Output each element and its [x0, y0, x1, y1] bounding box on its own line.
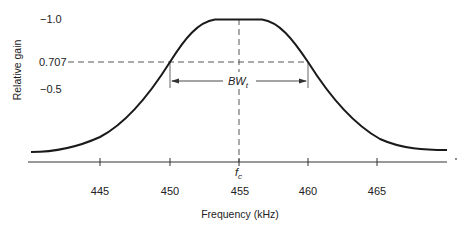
y-axis-title: Relative gain [11, 39, 23, 100]
fc-label: fc [235, 166, 242, 181]
bw-arrow-left-head [171, 79, 179, 84]
chart-svg: −1.0 0.707 −0.5 Relative gain BWt fc 445… [0, 0, 467, 231]
x-tick-label-450: 450 [161, 185, 179, 197]
stray-dot [455, 158, 457, 160]
x-tick-label-455: 455 [231, 185, 249, 197]
bw-arrow-right-head [299, 79, 307, 84]
x-tick-label-465: 465 [368, 185, 386, 197]
x-tick-label-445: 445 [91, 185, 109, 197]
y-tick-label-0707: 0.707 [39, 56, 67, 68]
x-tick-label-460: 460 [299, 185, 317, 197]
y-tick-label-05: −0.5 [40, 83, 62, 95]
y-tick-label-1: −1.0 [40, 13, 62, 25]
bandpass-response-chart: −1.0 0.707 −0.5 Relative gain BWt fc 445… [0, 0, 467, 231]
x-axis-title: Frequency (kHz) [201, 208, 279, 220]
